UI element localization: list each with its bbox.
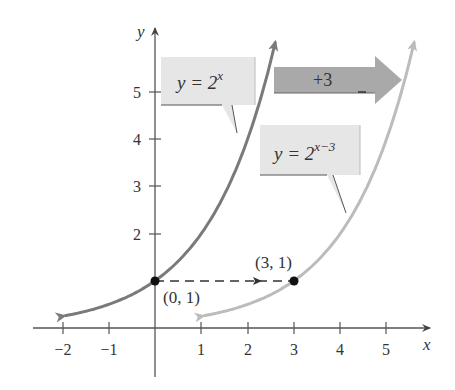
callout2-exponent: x−3 bbox=[313, 139, 336, 154]
shift-label: +3 bbox=[313, 70, 332, 90]
callout-original: y = 2x bbox=[161, 57, 255, 133]
callout-shifted: y = 2x−3 bbox=[260, 125, 360, 213]
point-0-1 bbox=[151, 277, 160, 286]
y-ticks: 2345 bbox=[133, 84, 161, 243]
x-tick-label: −1 bbox=[100, 341, 117, 358]
x-tick-label: −2 bbox=[54, 341, 71, 358]
x-axis-label: x bbox=[422, 335, 431, 354]
svg-text:y = 2x: y = 2x bbox=[175, 68, 223, 93]
x-tick-label: 3 bbox=[290, 341, 298, 358]
y-tick-label: 2 bbox=[133, 226, 141, 243]
y-axis-label: y bbox=[135, 22, 145, 41]
point-3-1 bbox=[290, 277, 299, 286]
x-tick-label: 4 bbox=[336, 341, 344, 358]
callout2-text: y = 2 bbox=[272, 143, 315, 164]
point-3-1-label: (3, 1) bbox=[255, 253, 292, 272]
callout1-exponent: x bbox=[216, 68, 223, 83]
y-tick-label: 4 bbox=[133, 131, 141, 148]
x-tick-label: 1 bbox=[197, 341, 205, 358]
callout1-text: y = 2 bbox=[175, 72, 218, 93]
point-0-1-label: (0, 1) bbox=[163, 288, 200, 307]
y-tick-label: 5 bbox=[133, 84, 141, 101]
y-tick-label: 3 bbox=[133, 178, 141, 195]
x-tick-label: 5 bbox=[382, 341, 390, 358]
x-tick-label: 2 bbox=[244, 341, 252, 358]
shift-arrow: +3 bbox=[274, 56, 402, 104]
graph-canvas: −2−112345 2345 x y (0, 1) (3, 1) y = 2x … bbox=[0, 0, 455, 390]
